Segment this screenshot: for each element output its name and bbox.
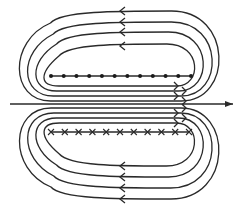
dots-row-current-out <box>49 74 193 78</box>
upper-field-loops <box>19 7 219 105</box>
field-loop-lower-2 <box>36 118 203 177</box>
crosses-row-current-in <box>48 129 192 135</box>
dot-icon <box>62 74 66 78</box>
field-loop-upper-2 <box>36 32 203 91</box>
dot-icon <box>74 74 78 78</box>
dot-icon <box>87 74 91 78</box>
field-loop-upper-4 <box>19 11 219 101</box>
dot-icon <box>189 74 193 78</box>
dot-icon <box>138 74 142 78</box>
field-loop-lower-4 <box>19 108 218 199</box>
dot-icon <box>125 74 129 78</box>
arrow-right-icon <box>225 101 233 107</box>
field-loop-upper-1 <box>44 44 195 86</box>
lower-field-loops <box>19 104 218 203</box>
dot-icon <box>49 74 53 78</box>
dot-icon <box>100 74 104 78</box>
dot-icon <box>151 74 155 78</box>
dot-icon <box>164 74 168 78</box>
axis-arrow <box>10 101 233 107</box>
dot-icon <box>176 74 180 78</box>
dot-icon <box>113 74 117 78</box>
field-lines-diagram <box>0 0 243 211</box>
